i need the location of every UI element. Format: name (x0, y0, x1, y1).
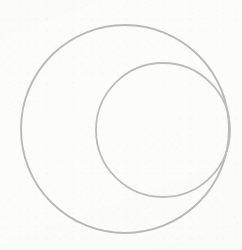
drawing-canvas (0, 0, 242, 250)
inner-circle (96, 63, 230, 197)
outer-circle (21, 25, 229, 233)
two-circles-figure (0, 0, 242, 250)
